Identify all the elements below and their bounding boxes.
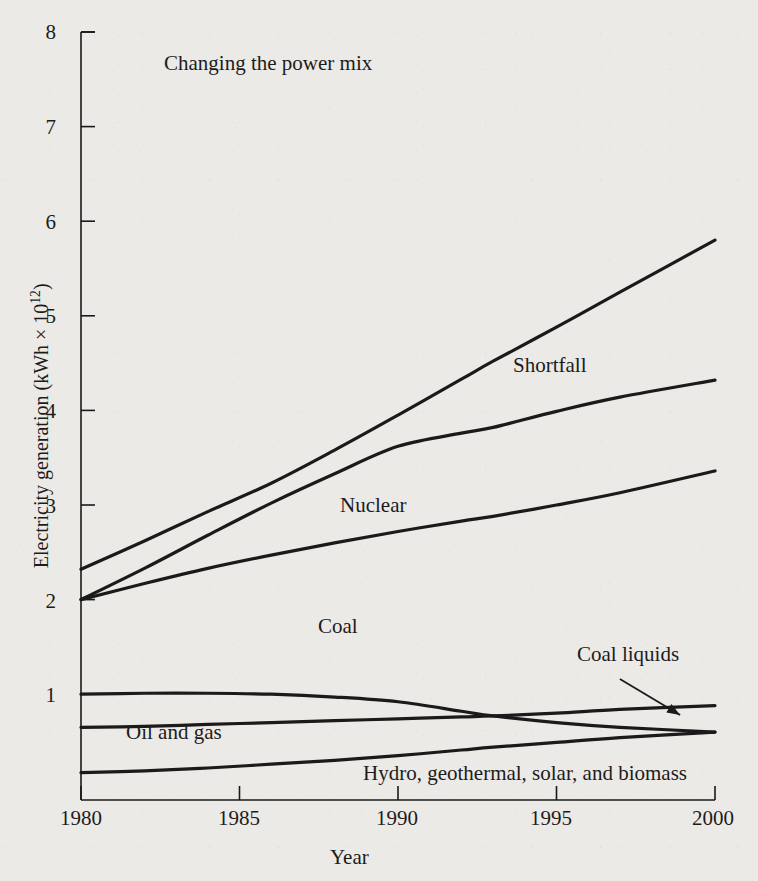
y-axis-title: Electricity generation (kWh × 1012) — [29, 266, 51, 586]
x-tick-label: 1980 — [36, 808, 126, 829]
series-line-shortfall — [81, 240, 715, 569]
y-axis-title-prefix: Electricity generation (kWh × 10 — [30, 304, 52, 569]
x-tick-label: 1995 — [506, 808, 596, 829]
series-label-hydro-geothermal-solar-biomass: Hydro, geothermal, solar, and biomass — [363, 763, 687, 784]
x-tick-label: 1990 — [352, 808, 442, 829]
x-tick-label: 1985 — [194, 808, 284, 829]
y-axis-title-exponent: 12 — [28, 290, 43, 304]
x-tick-label: 2000 — [668, 808, 758, 829]
series-label-nuclear: Nuclear — [340, 495, 406, 516]
series-label-coal: Coal — [318, 616, 358, 637]
chart-title: Changing the power mix — [164, 53, 372, 74]
y-tick-label: 6 — [22, 212, 56, 233]
x-axis-title: Year — [330, 847, 369, 868]
series-label-coal-liquids: Coal liquids — [577, 644, 679, 665]
plot-area — [0, 0, 758, 881]
y-tick-label: 8 — [22, 22, 56, 43]
series-line-coal — [81, 471, 715, 600]
y-tick-label: 1 — [22, 685, 56, 706]
figure-chart-changing-power-mix: Changing the power mix 8 7 6 5 4 3 2 1 1… — [0, 0, 758, 881]
y-tick-label: 2 — [22, 591, 56, 612]
series-line-nuclear — [81, 380, 715, 599]
series-label-oil-and-gas: Oil and gas — [126, 722, 222, 743]
series-label-shortfall: Shortfall — [513, 355, 587, 376]
y-axis-title-suffix: ) — [30, 283, 52, 290]
y-tick-label: 7 — [22, 117, 56, 138]
